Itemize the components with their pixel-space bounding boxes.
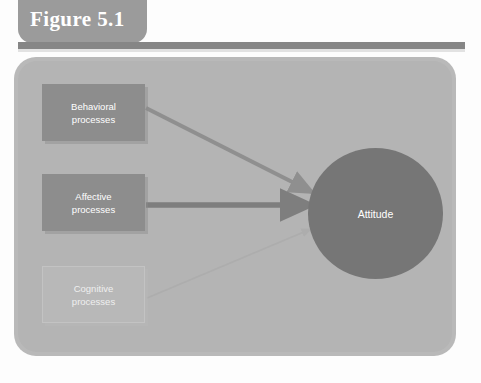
node-attitude: Attitude [308, 148, 443, 279]
node-behavioral-line2: processes [72, 114, 115, 125]
figure-tab: Figure 5.1 [18, 0, 147, 43]
node-attitude-label: Attitude [358, 208, 394, 220]
figure-screenshot: Figure 5.1 [0, 0, 481, 383]
arrow-cognitive-to-attitude [147, 229, 311, 298]
arrow-behavioral-to-attitude [146, 108, 312, 192]
header-rule [18, 42, 465, 49]
node-affective-line2: processes [72, 204, 115, 215]
node-behavioral-processes-label: Behavioral processes [42, 100, 145, 126]
diagram-panel: Behavioral processes Affective processes… [14, 57, 456, 356]
node-affective-processes-label: Affective processes [42, 190, 145, 216]
node-affective-processes: Affective processes [42, 174, 145, 231]
node-cognitive-line2: processes [72, 296, 115, 307]
node-affective-line1: Affective [75, 191, 111, 202]
node-behavioral-line1: Behavioral [71, 101, 116, 112]
node-behavioral-processes: Behavioral processes [42, 84, 145, 141]
header-rule-shadow [18, 49, 465, 52]
node-cognitive-processes-label: Cognitive processes [43, 282, 144, 308]
node-cognitive-processes: Cognitive processes [42, 266, 145, 323]
figure-tab-label: Figure 5.1 [30, 7, 145, 32]
node-cognitive-line1: Cognitive [74, 283, 114, 294]
